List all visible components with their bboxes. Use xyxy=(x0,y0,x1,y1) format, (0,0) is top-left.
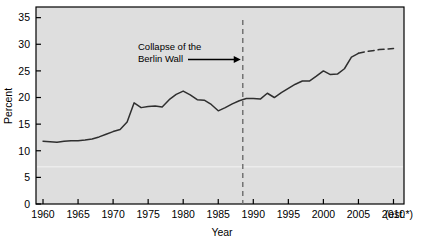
scan-artifact-band xyxy=(37,166,403,168)
x-tick-label: 1980 xyxy=(172,208,196,220)
annotation-line-1: Collapse of the xyxy=(138,41,201,52)
x-tick-label: 1995 xyxy=(277,208,301,220)
x-tick-estimate-suffix: (est.*) xyxy=(385,208,413,220)
y-tick-label: 0 xyxy=(24,198,30,210)
x-axis-title: Year xyxy=(211,226,233,238)
x-tick-label: 1975 xyxy=(136,208,160,220)
y-tick-label: 20 xyxy=(18,91,30,103)
y-tick-label: 5 xyxy=(24,171,30,183)
x-tick-label: 1965 xyxy=(66,208,90,220)
x-tick-label: 2005 xyxy=(347,208,371,220)
y-tick-label: 15 xyxy=(18,118,30,130)
chart-container: 05101520253035 1960196519701975198019851… xyxy=(0,0,422,241)
y-tick-label: 30 xyxy=(18,38,30,50)
x-tick-label: 1970 xyxy=(101,208,125,220)
x-tick-label: 1960 xyxy=(31,208,55,220)
x-tick-label: 1985 xyxy=(207,208,231,220)
plot-background xyxy=(36,7,404,204)
y-axis-title: Percent xyxy=(2,88,14,124)
y-tick-label: 35 xyxy=(18,11,30,23)
x-tick-label: 1990 xyxy=(242,208,266,220)
line-chart: 05101520253035 1960196519701975198019851… xyxy=(0,0,422,241)
x-tick-label: 2000 xyxy=(312,208,336,220)
y-tick-label: 25 xyxy=(18,65,30,77)
y-tick-label: 10 xyxy=(18,145,30,157)
annotation-line-2: Berlin Wall xyxy=(138,53,183,64)
